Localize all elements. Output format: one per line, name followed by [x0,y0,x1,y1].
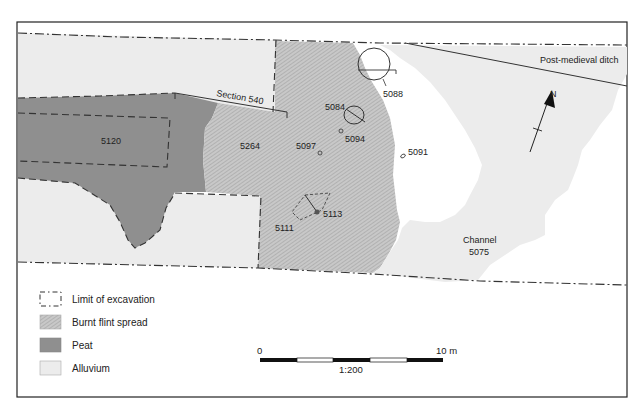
channel-number-label: 5075 [469,247,489,257]
legend-item-burnt-flint-spread: Burnt flint spread [40,315,148,329]
context-5088-label: 5088 [383,89,403,99]
context-5097-label: 5097 [296,141,316,151]
channel-name-label: Channel [463,235,497,245]
svg-text:Limit of excavation: Limit of excavation [72,294,155,305]
svg-text:Alluvium: Alluvium [72,363,110,374]
svg-text:Burnt flint spread: Burnt flint spread [72,317,148,328]
svg-text:N: N [550,89,557,99]
context-5091-label: 5091 [408,147,428,157]
context-5094-label: 5094 [345,134,365,144]
scale-end-label: 10 m [436,345,457,356]
context-5113-label: 5113 [323,209,342,219]
site-plan-map: N Section 540 Post-medieval ditch 5120 5… [0,0,644,410]
feature-5113 [315,210,320,215]
svg-text:Peat: Peat [72,340,93,351]
scale-start-label: 0 [257,345,262,356]
ditch-label: Post-medieval ditch [540,55,619,65]
legend-item-alluvium: Alluvium [40,361,110,375]
scale-ratio-label: 1:200 [339,364,363,375]
context-5120-label: 5120 [101,136,121,146]
context-5264-label: 5264 [240,141,260,151]
context-5111-label: 5111 [275,223,294,233]
context-5084-label: 5084 [325,102,345,112]
